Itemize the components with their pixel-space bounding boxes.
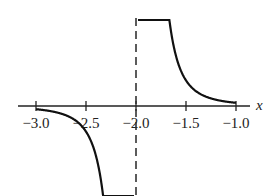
x-tick-label: −3.0 [22,115,49,131]
x-tick-label: −1.5 [172,115,199,131]
x-tick-label: −1.0 [222,115,249,131]
curve-right-branch [138,20,236,103]
function-graph: −3.0−2.5−2.0−1.5−1.0 x [0,0,273,196]
x-axis-label: x [255,97,263,113]
x-tick-label: −2.5 [72,115,99,131]
